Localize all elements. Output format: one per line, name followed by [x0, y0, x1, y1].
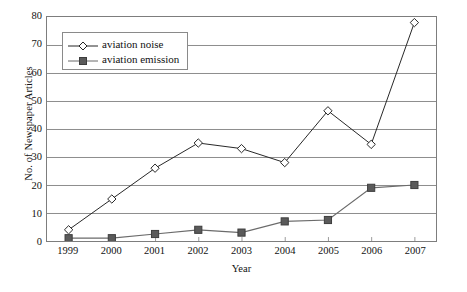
data-point-square: [195, 226, 202, 233]
y-axis-tick-labels: 01020304050607080: [18, 14, 42, 242]
chart-legend: aviation noise aviation emission: [62, 32, 188, 70]
y-tick-label: 60: [18, 68, 42, 78]
y-tick-label: 0: [18, 237, 42, 247]
data-point-square: [281, 218, 288, 225]
square-marker-icon: [68, 53, 98, 65]
y-tick-label: 30: [18, 152, 42, 162]
data-point-diamond: [237, 144, 245, 152]
data-point-square: [324, 216, 331, 223]
legend-label-aviation-noise: aviation noise: [98, 38, 163, 50]
legend-item-aviation-noise: aviation noise: [68, 36, 179, 51]
data-point-diamond: [194, 139, 202, 147]
y-tick-label: 80: [18, 11, 42, 21]
data-point-square: [368, 184, 375, 191]
line-chart: No. of Newspaper Articles 01020304050607…: [0, 0, 467, 292]
data-point-diamond: [108, 195, 116, 203]
y-tick-label: 20: [18, 181, 42, 191]
diamond-marker-icon: [68, 38, 98, 50]
data-point-diamond: [367, 140, 375, 148]
y-tick-label: 40: [18, 124, 42, 134]
y-tick-label: 70: [18, 39, 42, 49]
data-point-square: [108, 235, 115, 241]
x-axis-tick-labels: 199920002001200220032004200520062007: [46, 245, 437, 261]
data-point-diamond: [151, 164, 159, 172]
data-point-square: [151, 230, 158, 237]
data-point-diamond: [410, 18, 418, 26]
data-point-square: [65, 235, 72, 241]
x-axis-title: Year: [46, 263, 437, 274]
x-tick-label: 2007: [390, 245, 440, 256]
y-tick-label: 10: [18, 209, 42, 219]
legend-item-aviation-emission: aviation emission: [68, 51, 179, 66]
data-point-square: [411, 181, 418, 188]
legend-label-aviation-emission: aviation emission: [98, 53, 179, 65]
data-point-square: [238, 229, 245, 236]
y-tick-label: 50: [18, 96, 42, 106]
data-point-diamond: [64, 226, 72, 234]
